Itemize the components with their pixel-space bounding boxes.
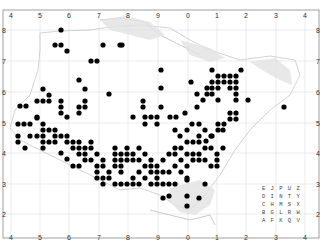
record-dot <box>94 175 99 180</box>
x-tick-label-top: 5 <box>38 12 42 19</box>
record-dot <box>184 139 189 144</box>
record-dot <box>215 79 220 84</box>
record-dot <box>209 85 214 90</box>
record-dot <box>94 151 99 156</box>
record-dot <box>76 145 81 150</box>
record-dot <box>189 121 194 126</box>
record-dot <box>15 121 20 126</box>
record-dot <box>190 157 195 162</box>
record-dot <box>166 169 171 174</box>
record-dot <box>148 114 153 119</box>
record-dot <box>184 151 189 156</box>
record-dot <box>184 193 189 198</box>
record-dot <box>136 157 141 162</box>
record-dot <box>40 145 45 150</box>
record-dot <box>130 175 135 180</box>
record-dot <box>112 157 117 162</box>
record-dot <box>148 157 153 162</box>
record-dot <box>148 169 153 174</box>
record-dot <box>184 163 189 168</box>
y-tick-label-left: 2 <box>2 211 6 218</box>
record-dot <box>209 67 214 72</box>
record-dot <box>196 157 201 162</box>
record-dot <box>233 97 238 102</box>
record-dot <box>173 114 178 119</box>
record-dot <box>130 114 135 119</box>
record-dot <box>214 157 219 162</box>
y-tick-label-right: 7 <box>316 58 320 65</box>
record-dot <box>172 151 177 156</box>
record-dot <box>178 169 183 174</box>
x-tick-label-top: 2 <box>244 12 248 19</box>
record-dot <box>64 156 69 161</box>
tetrad-legend-row: E J P U Z <box>262 185 301 192</box>
record-dot <box>40 139 45 144</box>
record-dot <box>70 145 75 150</box>
record-dot <box>172 181 177 186</box>
tetrad-legend-row: D I N T Y <box>262 193 301 200</box>
record-dot <box>21 121 26 126</box>
record-dot <box>158 104 163 109</box>
record-dot <box>100 175 105 180</box>
x-tick-label-bottom: 0 <box>186 234 190 241</box>
record-dot <box>184 203 189 208</box>
record-dot <box>64 114 69 119</box>
record-dot <box>233 85 238 90</box>
record-dot <box>215 97 220 102</box>
record-dot <box>15 139 20 144</box>
record-dot <box>76 110 81 115</box>
record-dot <box>106 91 111 96</box>
record-dot <box>136 145 141 150</box>
record-dot <box>46 139 51 144</box>
record-dot <box>58 150 63 155</box>
record-dot <box>88 157 93 162</box>
record-dot <box>154 114 159 119</box>
record-dot <box>64 139 69 144</box>
record-dot <box>202 181 207 186</box>
record-dot <box>148 163 153 168</box>
record-dot <box>142 151 147 156</box>
record-dot <box>76 139 81 144</box>
record-dot <box>220 127 225 132</box>
record-dot <box>22 145 27 150</box>
record-dot <box>112 151 117 156</box>
record-dot <box>130 181 135 186</box>
record-dot <box>70 139 75 144</box>
record-dot <box>204 85 209 90</box>
y-tick-label-left: 5 <box>2 120 6 127</box>
record-dot <box>202 127 207 132</box>
record-dot <box>208 133 213 138</box>
record-dot <box>58 110 63 115</box>
record-dot <box>76 104 81 109</box>
record-dot <box>233 116 238 121</box>
x-tick-label-top: 7 <box>97 12 101 19</box>
record-dot <box>208 163 213 168</box>
tetrad-legend-row: A F K Q V <box>262 217 301 224</box>
record-dot <box>140 104 145 109</box>
record-dot <box>142 163 147 168</box>
record-dot <box>160 195 165 200</box>
x-tick-label-bottom: 1 <box>215 234 219 241</box>
x-tick-label-bottom: 3 <box>274 234 278 241</box>
x-tick-label-bottom: 9 <box>156 234 160 241</box>
record-dot <box>203 138 208 143</box>
record-dot <box>190 151 195 156</box>
record-dot <box>15 133 20 138</box>
record-dot <box>34 98 39 103</box>
x-tick-label-bottom: 8 <box>126 234 130 241</box>
y-tick-label-right: 6 <box>316 89 320 96</box>
x-tick-label-bottom: 6 <box>67 234 71 241</box>
tetrad-letter-legend: E J P U ZD I N T YC H M S XB G L R WA F … <box>262 185 301 224</box>
record-dot <box>82 145 87 150</box>
record-dot <box>196 121 201 126</box>
y-tick-label-left: 6 <box>2 89 6 96</box>
y-tick-label-right: 5 <box>316 120 320 127</box>
x-tick-label-top: 6 <box>67 12 71 19</box>
tetrad-legend-row: C H M S X <box>262 201 301 208</box>
x-tick-label-top: 9 <box>156 12 160 19</box>
y-tick-label-right: 8 <box>316 27 320 34</box>
x-tick-label-top: 1 <box>215 12 219 19</box>
record-dot <box>52 127 57 132</box>
record-dot <box>220 145 225 150</box>
record-dot <box>190 139 195 144</box>
